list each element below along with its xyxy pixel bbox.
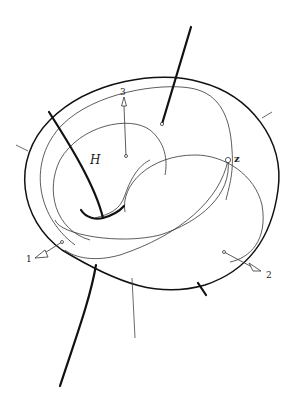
inner-loop-curve <box>55 160 228 239</box>
bottom-stick <box>60 265 96 386</box>
z-descending-curve <box>65 160 228 259</box>
vector-1-base <box>61 241 64 244</box>
top-stick-end-dot <box>160 122 163 125</box>
vector-2-base <box>223 251 226 254</box>
top-stick <box>162 27 191 124</box>
middle-loop <box>53 123 166 240</box>
vector-3-shaft <box>124 106 126 156</box>
vector-1-label: 1 <box>26 254 32 264</box>
tick-right <box>262 112 272 118</box>
outer-boundary-inner-rim <box>40 87 232 245</box>
vector-2-head <box>249 263 261 271</box>
vector-2-label: 2 <box>266 270 272 280</box>
vector-3-base <box>125 155 128 158</box>
lower-lobe <box>124 155 263 262</box>
point-z-label: z <box>234 153 240 164</box>
vector-3-label: 3 <box>120 87 126 97</box>
junction-point-z <box>225 157 230 162</box>
lower-lobe-left <box>95 160 150 218</box>
tick-bottom <box>132 278 135 338</box>
vector-1-head <box>35 250 48 258</box>
tick-left <box>16 145 28 151</box>
vector-3-head <box>122 97 127 106</box>
curve-H-label: H <box>89 153 101 167</box>
topology-diagram: 3 1 2 z H <box>0 0 296 410</box>
